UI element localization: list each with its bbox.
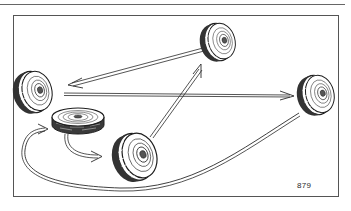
arrow-top-to-left <box>68 48 204 88</box>
wheel-right <box>292 71 338 119</box>
wheel-spare <box>52 108 104 134</box>
wheel-top <box>196 19 240 65</box>
tire-rotation-diagram: 879 <box>0 0 351 211</box>
arrow-left-to-right <box>64 91 294 100</box>
arrow-spare-to-bottom <box>65 134 102 162</box>
wheel-left <box>8 67 56 118</box>
arrow-bottom-to-top <box>150 64 202 138</box>
figure-number: 879 <box>297 181 311 190</box>
